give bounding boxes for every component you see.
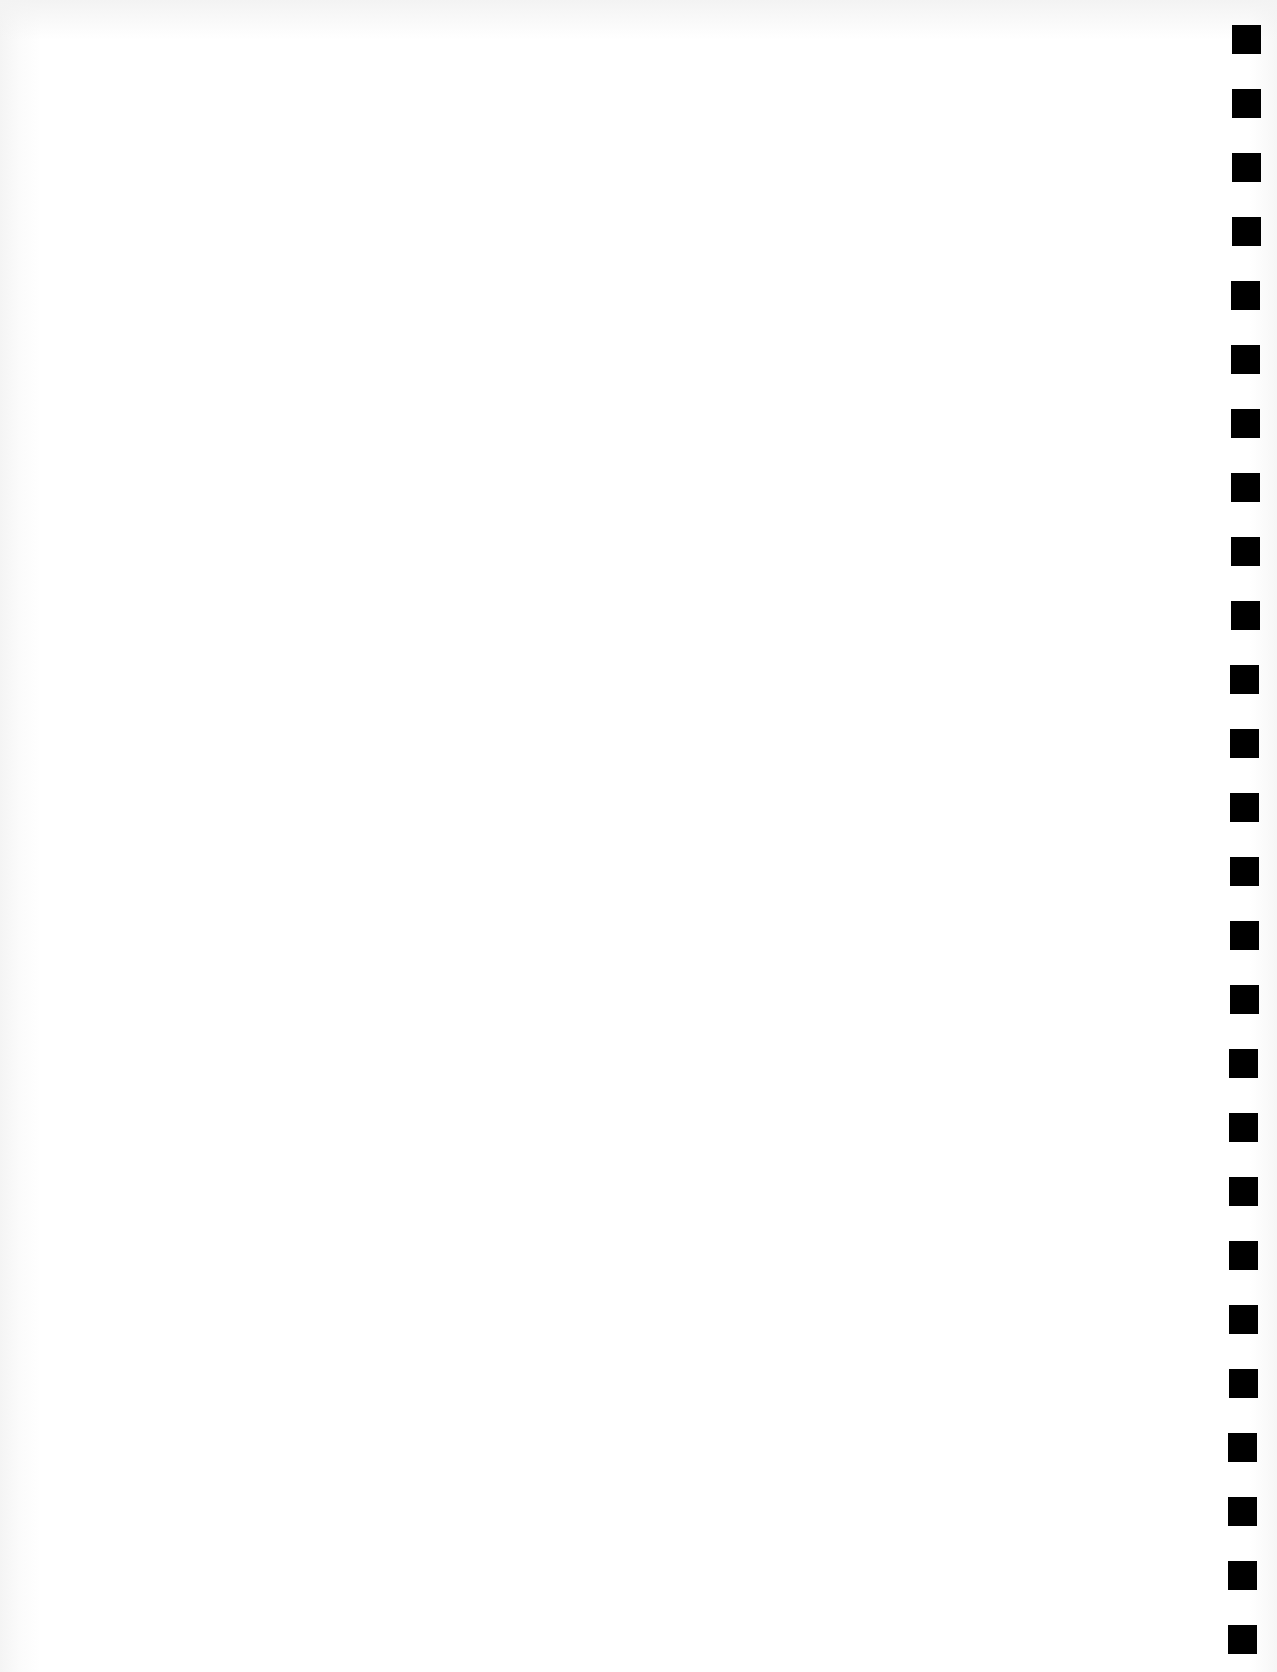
binding-mark-square-icon <box>1230 985 1259 1014</box>
binding-mark-square-icon <box>1229 1049 1258 1078</box>
binding-mark-square-icon <box>1229 1369 1258 1398</box>
binding-mark-square-icon <box>1230 857 1259 886</box>
binding-mark-square-icon <box>1230 665 1259 694</box>
scanned-page <box>0 0 1277 1672</box>
binding-mark-square-icon <box>1231 473 1260 502</box>
binding-mark-square-icon <box>1229 1177 1258 1206</box>
binding-mark-square-icon <box>1228 1433 1257 1462</box>
binding-mark-square-icon <box>1228 1497 1257 1526</box>
binding-mark-square-icon <box>1230 729 1259 758</box>
binding-mark-square-icon <box>1230 921 1259 950</box>
binding-mark-square-icon <box>1232 25 1261 54</box>
binding-mark-square-icon <box>1228 1625 1257 1654</box>
binding-mark-square-icon <box>1231 345 1260 374</box>
binding-mark-square-icon <box>1232 217 1261 246</box>
binding-mark-square-icon <box>1231 537 1260 566</box>
binding-mark-square-icon <box>1232 89 1261 118</box>
binding-mark-square-icon <box>1228 1561 1257 1590</box>
binding-mark-square-icon <box>1231 409 1260 438</box>
binding-mark-square-icon <box>1231 281 1260 310</box>
binding-mark-square-icon <box>1230 793 1259 822</box>
binding-mark-square-icon <box>1229 1113 1258 1142</box>
binding-mark-square-icon <box>1229 1241 1258 1270</box>
binding-mark-square-icon <box>1231 601 1260 630</box>
binding-mark-square-icon <box>1232 153 1261 182</box>
binding-marks-column <box>0 0 1277 1672</box>
binding-mark-square-icon <box>1229 1305 1258 1334</box>
